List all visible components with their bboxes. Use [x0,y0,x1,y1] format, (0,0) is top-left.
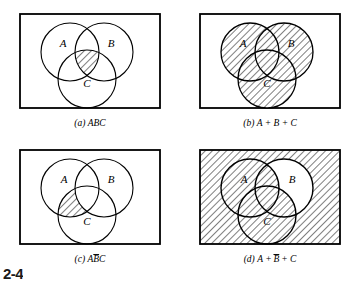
panel-c-caption-post: C [99,254,106,264]
panel-c-caption-tag: (c) [75,254,86,265]
panel-a-caption-tag: (a) [74,118,85,129]
label-c: C [263,77,271,89]
label-b: B [289,173,296,185]
panel-d-caption-tag: (d) [244,254,255,265]
panel-d-caption-pre: A + [256,254,273,264]
label-c: C [83,215,91,227]
label-a: A [60,173,68,185]
label-b: B [288,37,295,49]
panel-b: A B C (b) A + B + C [180,0,360,140]
label-b: B [108,37,115,49]
panel-c: A B C (c) ABC [0,133,180,273]
panel-d-caption-post: + C [279,254,297,264]
panel-c-caption: (c) ABC [75,254,107,265]
panel-d: A B C (d) A + B + C [180,133,360,273]
panel-a-caption-expr: ABC [87,118,107,128]
panel-c-diagram: A B C (c) ABC [0,133,180,280]
shaded-region-complement-b [200,150,340,244]
panel-d-caption: (d) A + B + C [244,254,297,265]
panel-b-caption-tag: (b) [243,118,254,129]
panel-b-caption-expr: A + B + C [256,118,298,128]
figure-venn-diagrams: A B C (a) ABC [0,0,360,281]
figure-number: 2-4 [3,266,23,281]
label-c: C [83,77,91,89]
panel-a-diagram: A B C (a) ABC [0,0,180,140]
label-a: A [59,37,67,49]
panel-a: A B C (a) ABC [0,0,180,140]
label-c: C [263,215,271,227]
panel-b-diagram: A B C (b) A + B + C [180,0,360,140]
label-a: A [239,37,247,49]
panel-b-caption: (b) A + B + C [243,118,297,129]
panel-d-diagram: A B C (d) A + B + C [180,133,360,280]
label-a: A [240,173,248,185]
label-b: B [108,173,115,185]
panel-a-caption: (a) ABC [74,118,106,129]
